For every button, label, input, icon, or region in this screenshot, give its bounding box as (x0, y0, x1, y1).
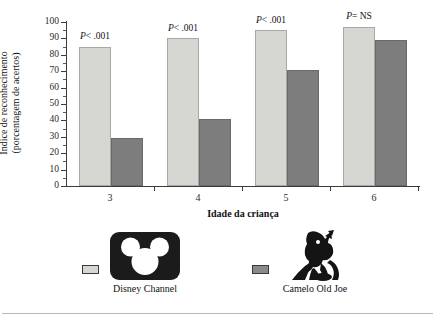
y-tick-label: 10 (50, 165, 60, 175)
y-axis-title-line-1: Índice de reconhecimento (0, 51, 10, 154)
y-minor-tick-mark (63, 63, 66, 64)
y-axis-title-line-2: (porcentagem de acertos) (10, 52, 23, 153)
y-tick-mark (61, 170, 66, 171)
legend-label-camelo-old-joe: Camelo Old Joe (245, 283, 385, 294)
x-tick-label: 5 (266, 192, 306, 203)
p-symbol: P (168, 23, 174, 33)
legend-swatch-camelo-old-joe (252, 265, 269, 274)
y-tick-mark (61, 104, 66, 105)
legend-entry-camelo-old-joe: Camelo Old Joe (225, 228, 405, 303)
plot-area: P< .001P< .001P< .001P= NS (67, 22, 419, 186)
y-tick-mark (61, 153, 66, 154)
x-tick-mark (330, 186, 331, 191)
y-minor-tick-mark (63, 96, 66, 97)
p-symbol: P (256, 15, 262, 25)
y-tick-label: 0 (54, 181, 59, 191)
significance-annotation: P< .001 (139, 24, 227, 34)
y-minor-tick-mark (63, 145, 66, 146)
y-axis-title: Índice de reconhecimento (porcentagem de… (0, 18, 23, 188)
significance-annotation: P< .001 (51, 32, 139, 42)
mickey-mouse-logo-icon (108, 230, 182, 282)
legend-label-disney-channel: Disney Channel (75, 283, 215, 294)
significance-annotation: P< .001 (227, 16, 315, 26)
significance-annotation: P= NS (315, 12, 403, 22)
bar (343, 27, 375, 186)
x-tick-mark (242, 186, 243, 191)
x-tick-label: 6 (354, 192, 394, 203)
bar (287, 70, 319, 186)
x-axis-title: Idade da criança (66, 208, 420, 219)
y-tick-mark (61, 120, 66, 121)
bar-group: P< .001 (155, 22, 243, 186)
y-minor-tick-mark (63, 178, 66, 179)
bar (111, 138, 143, 186)
y-tick-mark (61, 137, 66, 138)
y-tick-label: 70 (50, 66, 60, 76)
bar-group: P< .001 (67, 22, 155, 186)
y-minor-tick-mark (63, 129, 66, 130)
y-minor-tick-mark (63, 79, 66, 80)
y-tick-label: 20 (50, 148, 60, 158)
bar (167, 38, 199, 186)
x-tick-mark (154, 186, 155, 191)
bar (375, 40, 407, 186)
y-tick-label: 50 (50, 99, 60, 109)
y-tick-mark (61, 186, 66, 187)
chart-legend: Disney Channel (0, 228, 435, 303)
bottom-divider (2, 313, 433, 314)
legend-swatch-disney-channel (82, 265, 99, 274)
y-tick-mark (61, 55, 66, 56)
x-tick-mark (418, 186, 419, 191)
x-tick-label: 4 (178, 192, 218, 203)
y-minor-tick-mark (63, 30, 66, 31)
x-tick-label: 3 (90, 192, 130, 203)
bar-group: P= NS (331, 22, 419, 186)
y-tick-label: 40 (50, 116, 60, 126)
y-tick-label: 80 (50, 50, 60, 60)
bar (199, 119, 231, 186)
y-tick-label: 60 (50, 83, 60, 93)
legend-entry-disney-channel: Disney Channel (55, 228, 235, 303)
y-tick-mark (61, 22, 66, 23)
joe-camel-logo-icon (278, 230, 352, 282)
p-symbol: P (346, 11, 352, 21)
bar-group: P< .001 (243, 22, 331, 186)
bar (79, 47, 111, 186)
y-tick-mark (61, 88, 66, 89)
x-axis-line (66, 186, 420, 187)
y-minor-tick-mark (63, 161, 66, 162)
y-minor-tick-mark (63, 47, 66, 48)
y-tick-mark (61, 71, 66, 72)
y-minor-tick-mark (63, 112, 66, 113)
bar-chart-figure: Índice de reconhecimento (porcentagem de… (0, 0, 435, 327)
bar (255, 30, 287, 186)
y-tick-label: 100 (45, 17, 59, 27)
p-symbol: P (80, 31, 86, 41)
y-tick-label: 30 (50, 132, 60, 142)
